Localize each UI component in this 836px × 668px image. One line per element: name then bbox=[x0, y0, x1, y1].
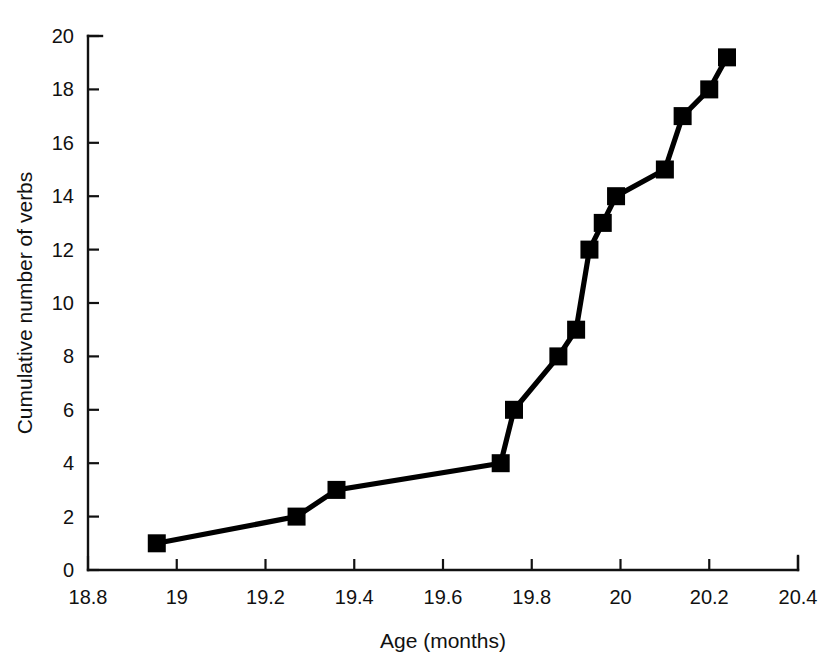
y-tick-label: 10 bbox=[52, 292, 74, 314]
y-tick-label: 2 bbox=[63, 506, 74, 528]
x-tick-label: 20.4 bbox=[779, 586, 818, 608]
data-point-marker bbox=[700, 80, 718, 98]
y-tick-label: 8 bbox=[63, 345, 74, 367]
data-point-marker bbox=[718, 48, 736, 66]
y-tick-label: 6 bbox=[63, 399, 74, 421]
y-tick-label: 4 bbox=[63, 452, 74, 474]
chart-figure: 18.81919.219.419.619.82020.220.4 0246810… bbox=[0, 0, 836, 668]
data-point-marker bbox=[549, 347, 567, 365]
data-point-marker bbox=[674, 107, 692, 125]
y-tick-label: 16 bbox=[52, 132, 74, 154]
y-tick-label: 20 bbox=[52, 25, 74, 47]
y-tick-label: 12 bbox=[52, 239, 74, 261]
y-tick-label: 18 bbox=[52, 78, 74, 100]
x-tick-label: 19.6 bbox=[424, 586, 463, 608]
y-axis-ticks bbox=[88, 36, 99, 570]
data-point-marker bbox=[580, 241, 598, 259]
x-tick-label: 19.2 bbox=[246, 586, 285, 608]
x-tick-label: 20.2 bbox=[690, 586, 729, 608]
x-tick-label: 19.8 bbox=[512, 586, 551, 608]
cumulative-verbs-line-chart: 18.81919.219.419.619.82020.220.4 0246810… bbox=[0, 0, 836, 668]
y-tick-label: 14 bbox=[52, 185, 74, 207]
y-tick-labels: 02468101214161820 bbox=[52, 25, 74, 581]
data-point-marker bbox=[594, 214, 612, 232]
data-point-marker bbox=[505, 401, 523, 419]
x-axis-title: Age (months) bbox=[380, 629, 506, 652]
data-point-marker bbox=[328, 481, 346, 499]
x-axis-ticks bbox=[88, 556, 798, 570]
data-point-marker bbox=[148, 534, 166, 552]
data-point-marker bbox=[288, 508, 306, 526]
x-tick-label: 20 bbox=[609, 586, 631, 608]
data-point-marker bbox=[567, 321, 585, 339]
data-point-marker bbox=[492, 454, 510, 472]
x-tick-label: 19 bbox=[166, 586, 188, 608]
data-point-marker bbox=[607, 187, 625, 205]
x-tick-label: 19.4 bbox=[335, 586, 374, 608]
y-tick-label: 0 bbox=[63, 559, 74, 581]
series-markers bbox=[148, 48, 736, 552]
data-point-marker bbox=[656, 161, 674, 179]
x-tick-label: 18.8 bbox=[69, 586, 108, 608]
x-tick-labels: 18.81919.219.419.619.82020.220.4 bbox=[69, 586, 818, 608]
y-axis-title: Cumulative number of verbs bbox=[13, 172, 36, 435]
series-line-cumulative-verbs bbox=[157, 57, 727, 543]
